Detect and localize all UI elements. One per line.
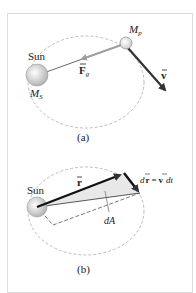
caption-b: (b): [77, 263, 90, 276]
velocity-arrow: [128, 48, 165, 90]
svg-text:r: r: [77, 176, 82, 188]
sun-label-b: Sun: [27, 184, 45, 196]
panel-b: Sun r dr=vdt dA (b): [27, 167, 174, 276]
radius-label: r: [77, 176, 82, 188]
displacement-equation: dr=vdt: [140, 175, 174, 185]
svg-text:Fg: Fg: [79, 64, 90, 78]
panel-a: Sun MS Mp Fg v (a): [26, 23, 167, 144]
planet-mass-label: Mp: [128, 23, 142, 37]
velocity-label: v: [161, 69, 167, 81]
force-arrow: [82, 44, 124, 59]
sun-mass-label: MS: [29, 87, 43, 101]
sun-icon: [26, 64, 48, 86]
planet-icon: [120, 37, 132, 49]
svg-text:v: v: [161, 69, 167, 81]
force-label: Fg: [79, 64, 90, 78]
caption-a: (a): [77, 131, 90, 144]
sun-label: Sun: [28, 50, 46, 62]
area-label: dA: [104, 215, 116, 226]
